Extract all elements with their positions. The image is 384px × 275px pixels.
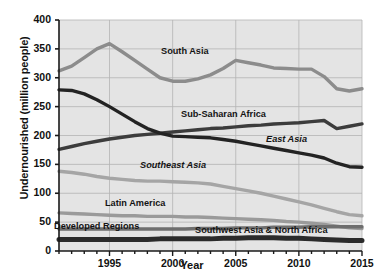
chart-figure: Undernourished (million people) Year 050… (0, 0, 384, 275)
x-tick-label: 2005 (216, 257, 256, 269)
series-label-east-asia: East Asia (266, 134, 307, 144)
y-axis-title: Undernourished (million people) (18, 0, 30, 238)
series-line-developed-regions (59, 238, 362, 241)
y-tick-label: 100 (17, 186, 51, 198)
y-tick-label: 200 (17, 129, 51, 141)
y-tick-label: 50 (17, 215, 51, 227)
series-label-south-asia: South Asia (161, 46, 209, 56)
series-label-sub-saharan-africa: Sub-Saharan Africa (181, 109, 266, 119)
y-tick-label: 250 (17, 100, 51, 112)
y-tick-label: 0 (17, 244, 51, 256)
y-tick-label: 150 (17, 157, 51, 169)
series-label-southwest-asia-north-africa: Southwest Asia & North Africa (195, 225, 328, 235)
y-tick-label: 350 (17, 42, 51, 54)
x-tick-label: 2010 (279, 257, 319, 269)
x-tick-label: 2000 (153, 257, 193, 269)
series-label-developed-regions: Developed Regions (54, 221, 139, 231)
x-tick-label: 2015 (342, 257, 382, 269)
y-tick-label: 300 (17, 71, 51, 83)
series-label-latin-america: Latin America (105, 198, 165, 208)
series-label-southeast-asia: Southeast Asia (140, 160, 206, 170)
x-tick-label: 1995 (90, 257, 130, 269)
y-tick-label: 400 (17, 13, 51, 25)
